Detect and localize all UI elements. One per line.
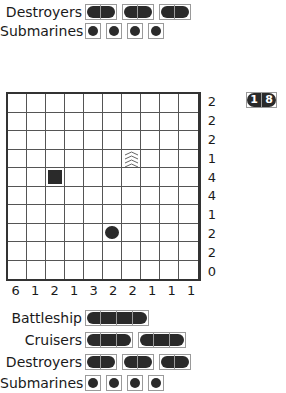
grid-cell[interactable]: [27, 150, 46, 169]
grid-cell[interactable]: [122, 242, 141, 261]
grid-cell[interactable]: [122, 187, 141, 206]
grid-cell[interactable]: [8, 187, 27, 206]
grid-cell[interactable]: [179, 242, 198, 261]
grid-cell[interactable]: [103, 242, 122, 261]
grid-cell[interactable]: [46, 242, 65, 261]
grid-cell[interactable]: [46, 131, 65, 150]
grid-cell[interactable]: [122, 261, 141, 280]
grid-cell-circle[interactable]: [103, 224, 122, 243]
grid-cell[interactable]: [122, 113, 141, 132]
grid-cell[interactable]: [160, 205, 179, 224]
grid-cell[interactable]: [141, 113, 160, 132]
grid-cell[interactable]: [122, 131, 141, 150]
grid-cell[interactable]: [46, 205, 65, 224]
grid-cell[interactable]: [103, 168, 122, 187]
grid-cell[interactable]: [179, 150, 198, 169]
grid-cell[interactable]: [160, 150, 179, 169]
grid-cell[interactable]: [84, 94, 103, 113]
grid-cell[interactable]: [84, 261, 103, 280]
grid-cell[interactable]: [141, 205, 160, 224]
grid-cell[interactable]: [27, 242, 46, 261]
grid-cell[interactable]: [8, 131, 27, 150]
grid-cell[interactable]: [46, 94, 65, 113]
grid-cell[interactable]: [8, 94, 27, 113]
grid-cell[interactable]: [179, 205, 198, 224]
grid-cell-square[interactable]: [46, 168, 65, 187]
grid-cell[interactable]: [65, 150, 84, 169]
grid-cell[interactable]: [179, 187, 198, 206]
grid-cell[interactable]: [103, 131, 122, 150]
grid-cell[interactable]: [8, 242, 27, 261]
grid-cell[interactable]: [122, 94, 141, 113]
grid-cell[interactable]: [27, 168, 46, 187]
grid-cell[interactable]: [8, 261, 27, 280]
grid-cell[interactable]: [179, 168, 198, 187]
grid-cell[interactable]: [160, 224, 179, 243]
grid-cell[interactable]: [8, 150, 27, 169]
grid-cell[interactable]: [27, 113, 46, 132]
grid-cell[interactable]: [84, 131, 103, 150]
grid-cell[interactable]: [65, 94, 84, 113]
grid-cell[interactable]: [160, 131, 179, 150]
grid-cell[interactable]: [27, 261, 46, 280]
grid-cell[interactable]: [103, 261, 122, 280]
grid-cell[interactable]: [8, 205, 27, 224]
grid-cell[interactable]: [8, 113, 27, 132]
grid-cell[interactable]: [103, 150, 122, 169]
grid-cell[interactable]: [65, 113, 84, 132]
grid-cell[interactable]: [141, 261, 160, 280]
grid-cell[interactable]: [27, 205, 46, 224]
grid-cell[interactable]: [179, 261, 198, 280]
grid-cell[interactable]: [8, 224, 27, 243]
grid-cell[interactable]: [160, 168, 179, 187]
grid-cell[interactable]: [65, 224, 84, 243]
grid-cell[interactable]: [65, 168, 84, 187]
grid-cell[interactable]: [141, 94, 160, 113]
grid-cell[interactable]: [141, 187, 160, 206]
grid-cell[interactable]: [160, 242, 179, 261]
grid-cell[interactable]: [84, 242, 103, 261]
grid-cell[interactable]: [179, 224, 198, 243]
grid-cell[interactable]: [27, 187, 46, 206]
grid-cell[interactable]: [27, 224, 46, 243]
grid-cell[interactable]: [65, 187, 84, 206]
grid-cell[interactable]: [122, 224, 141, 243]
grid-cell[interactable]: [84, 224, 103, 243]
grid-cell[interactable]: [46, 113, 65, 132]
grid-cell[interactable]: [84, 187, 103, 206]
grid-cell[interactable]: [65, 205, 84, 224]
grid-cell[interactable]: [8, 168, 27, 187]
grid-cell[interactable]: [46, 261, 65, 280]
grid-cell[interactable]: [122, 168, 141, 187]
grid-cell[interactable]: [65, 261, 84, 280]
grid-cell[interactable]: [103, 113, 122, 132]
grid-cell[interactable]: [160, 94, 179, 113]
grid-cell[interactable]: [27, 94, 46, 113]
grid-cell[interactable]: [179, 94, 198, 113]
grid-cell-water[interactable]: [122, 150, 141, 169]
grid-cell[interactable]: [141, 224, 160, 243]
grid-cell[interactable]: [122, 205, 141, 224]
grid-cell[interactable]: [65, 131, 84, 150]
grid-cell[interactable]: [103, 205, 122, 224]
grid-cell[interactable]: [103, 187, 122, 206]
grid-cell[interactable]: [27, 131, 46, 150]
grid-cell[interactable]: [84, 150, 103, 169]
grid-cell[interactable]: [103, 94, 122, 113]
grid-cell[interactable]: [179, 113, 198, 132]
grid-cell[interactable]: [141, 242, 160, 261]
grid-cell[interactable]: [141, 131, 160, 150]
grid-cell[interactable]: [179, 131, 198, 150]
grid-cell[interactable]: [141, 168, 160, 187]
grid-cell[interactable]: [46, 187, 65, 206]
grid-cell[interactable]: [84, 205, 103, 224]
grid-cell[interactable]: [65, 242, 84, 261]
grid-cell[interactable]: [84, 168, 103, 187]
grid-cell[interactable]: [160, 187, 179, 206]
grid-cell[interactable]: [84, 113, 103, 132]
grid-cell[interactable]: [46, 224, 65, 243]
grid-cell[interactable]: [141, 150, 160, 169]
grid-cell[interactable]: [46, 150, 65, 169]
grid-cell[interactable]: [160, 261, 179, 280]
grid-cell[interactable]: [160, 113, 179, 132]
